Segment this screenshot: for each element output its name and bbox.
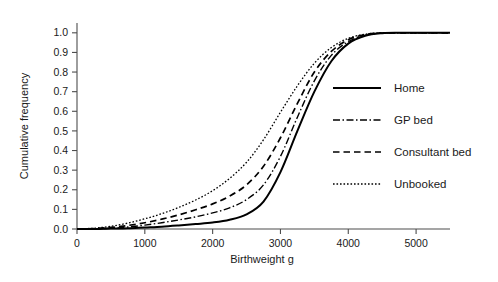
legend-label-gp-bed: GP bed [394,114,433,126]
x-tick-label: 2000 [201,237,225,249]
legend-item-unbooked: Unbooked [333,178,446,190]
legend-label-unbooked: Unbooked [394,178,446,190]
y-tick-labels: 0.00.10.20.30.40.50.60.70.80.91.0 [53,26,68,234]
x-tick-label: 3000 [269,237,293,249]
y-tick-label: 0.9 [53,46,68,58]
y-axis-title: Cumulative frequency [18,72,30,179]
legend-label-home: Home [394,82,425,94]
y-tick-label: 0.5 [53,125,68,137]
y-tick-label: 0.7 [53,85,68,97]
curve-consultant-bed [77,33,450,229]
birthweight-cumulative-frequency-figure: 0.00.10.20.30.40.50.60.70.80.91.0 Cumula… [0,0,498,282]
y-axis-group: 0.00.10.20.30.40.50.60.70.80.91.0 Cumula… [18,23,77,235]
curve-home [77,33,450,229]
y-tick-label: 0.3 [53,164,68,176]
x-axis-title: Birthweight g [230,253,294,265]
legend-item-gp-bed: GP bed [333,114,433,126]
x-axis-group: 010002000300040005000 Birthweight g [74,229,450,265]
chart-canvas: 0.00.10.20.30.40.50.60.70.80.91.0 Cumula… [0,0,498,282]
legend-item-consultant-bed: Consultant bed [333,146,471,158]
y-tick-label: 0.1 [53,203,68,215]
x-tick-marks [77,229,416,234]
y-tick-label: 0.0 [53,223,68,235]
x-tick-labels: 010002000300040005000 [74,237,428,249]
x-tick-label: 5000 [404,237,428,249]
y-tick-label: 0.8 [53,66,68,78]
x-tick-label: 0 [74,237,80,249]
y-tick-label: 0.6 [53,105,68,117]
curve-unbooked [77,33,450,229]
y-tick-marks [72,33,77,229]
y-tick-label: 0.4 [53,144,68,156]
data-curves [77,33,450,229]
legend-item-home: Home [333,82,425,94]
chart-legend: Home GP bed Consultant bed Unbooked [333,82,471,190]
curve-gp-bed [77,33,450,229]
y-tick-label: 0.2 [53,183,68,195]
legend-label-consultant-bed: Consultant bed [394,146,471,158]
x-tick-label: 1000 [133,237,157,249]
x-tick-label: 4000 [337,237,361,249]
y-tick-label: 1.0 [53,26,68,38]
